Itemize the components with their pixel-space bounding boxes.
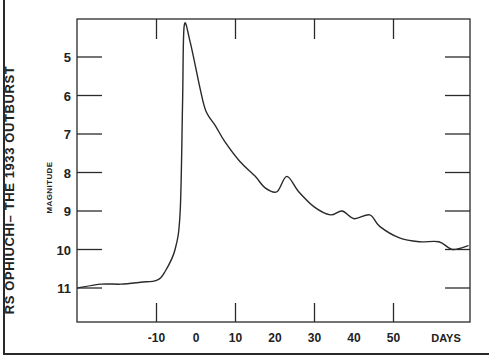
y-axis-ticks: 567891011	[57, 50, 470, 296]
y-tick-label: 11	[57, 281, 71, 296]
x-tick-label: 10	[229, 331, 243, 345]
x-tick-label: 50	[387, 331, 401, 345]
axes-frame	[77, 19, 470, 322]
y-tick-label: 10	[57, 243, 71, 258]
y-tick-label: 6	[64, 89, 71, 104]
light-curve-line	[78, 23, 469, 288]
x-tick-label: 0	[193, 331, 200, 345]
x-axis-ticks: -1001020304050DAYS	[148, 19, 461, 345]
x-axis-label: DAYS	[431, 332, 461, 344]
axes-border	[77, 19, 470, 322]
x-tick-label: 20	[268, 331, 282, 345]
series-line	[78, 23, 469, 288]
y-tick-label: 8	[64, 166, 71, 181]
x-tick-label: 40	[347, 331, 361, 345]
y-tick-label: 7	[64, 127, 71, 142]
y-tick-label: 9	[64, 204, 71, 219]
x-tick-label: -10	[148, 331, 166, 345]
chart-figure: RS OPHIUCHI– THE 1933 OUTBURST MAGNITUDE…	[0, 0, 489, 359]
x-tick-label: 30	[308, 331, 322, 345]
y-tick-label: 5	[64, 50, 71, 65]
plot-area: 567891011 -1001020304050DAYS	[0, 0, 489, 359]
